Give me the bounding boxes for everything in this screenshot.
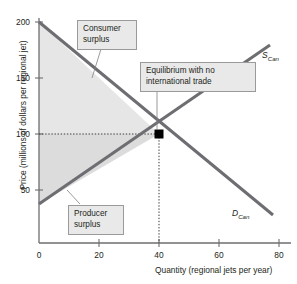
producer-callout-leader — [67, 190, 80, 204]
supply-demand-chart: Consumer surplus Equilibrium with no int… — [0, 0, 297, 284]
demand-curve-label: DCan — [232, 208, 250, 220]
x-tick-label-80: 80 — [267, 250, 291, 260]
consumer-surplus-callout: Consumer surplus — [77, 20, 137, 50]
demand-curve-subscript: Can — [238, 213, 249, 220]
x-tick-label-20: 20 — [87, 250, 111, 260]
x-axis-title: Quantity (regional jets per year) — [155, 265, 272, 275]
x-tick-label-0: 0 — [27, 250, 51, 260]
supply-curve-label: SCan — [262, 50, 279, 62]
supply-curve-subscript: Can — [268, 55, 279, 62]
producer-surplus-callout: Producer surplus — [68, 205, 124, 235]
chart-canvas — [0, 0, 297, 284]
producer-surplus-region — [39, 134, 159, 204]
y-tick-label-200: 200 — [6, 17, 30, 27]
y-axis-title: Price (millions of dollars per regional … — [18, 35, 28, 195]
equilibrium-marker — [155, 130, 164, 139]
equilibrium-callout: Equilibrium with no international trade — [140, 62, 256, 92]
x-tick-label-40: 40 — [147, 250, 171, 260]
x-tick-label-60: 60 — [207, 250, 231, 260]
